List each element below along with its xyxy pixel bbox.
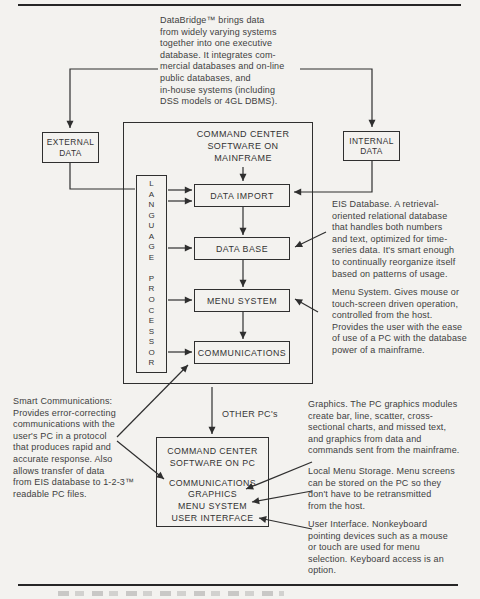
user-interface-note: User Interface. Nonkeyboard pointing dev… [308,519,473,577]
mainframe-title: COMMAND CENTER SOFTWARE ON MAINFRAME [192,128,294,165]
pc-modules: COMMUNICATIONS GRAPHICS MENU SYSTEM USER… [169,478,256,525]
graphics-note: Graphics. The PC graphics modules create… [308,399,473,457]
top-rule [18,4,461,6]
data-base-box: DATA BASE [194,237,290,260]
data-import-box: DATA IMPORT [194,184,290,207]
pc-title: COMMAND CENTER SOFTWARE ON PC [167,445,258,470]
arrow-intro-to-external [70,69,158,128]
other-pcs-label: OTHER PC's [222,409,278,419]
menu-system-note: Menu System. Gives mouse or touch-screen… [332,287,477,357]
smart-communications-note: Smart Communications: Provides error-cor… [13,396,165,500]
menu-system-box: MENU SYSTEM [194,289,290,312]
ghost-caption-bleed [58,591,284,596]
bottom-rule [18,584,458,586]
eis-database-note: EIS Database. A retrieval- oriented rela… [332,199,472,280]
language-processor-box: L A N G U A G E P R O C E S S O R [136,175,167,373]
local-menu-storage-note: Local Menu Storage. Menu screens can be … [308,466,473,512]
intro-text: DataBridge™ brings data from widely vary… [160,15,312,108]
communications-box: COMMUNICATIONS [194,341,290,364]
internal-data-box: INTERNAL DATA [343,131,400,161]
external-data-box: EXTERNAL DATA [42,132,99,163]
pc-box: COMMAND CENTER SOFTWARE ON PC COMMUNICAT… [156,437,269,527]
